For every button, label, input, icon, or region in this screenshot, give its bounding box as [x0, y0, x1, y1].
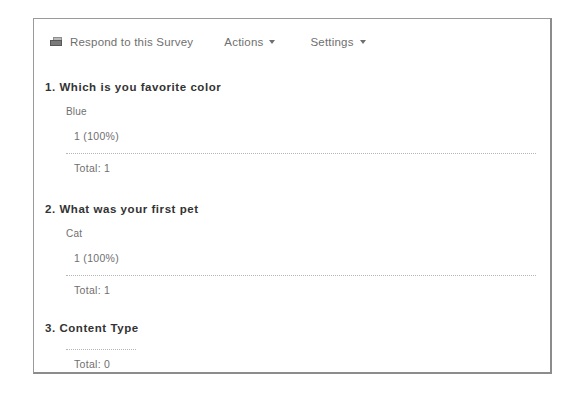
- question-title: 1. Which is you favorite color: [45, 81, 550, 93]
- question-block: 2. What was your first pet Cat 1 (100%) …: [34, 203, 550, 296]
- actions-menu-label: Actions: [224, 36, 263, 48]
- survey-icon: [50, 37, 64, 48]
- chevron-down-icon: [360, 40, 366, 44]
- question-separator: [66, 153, 536, 155]
- option-bar-track: [158, 123, 535, 148]
- question-title: 2. What was your first pet: [45, 203, 550, 215]
- question-separator: [66, 349, 136, 351]
- question-total: Total: 1: [74, 284, 550, 296]
- option-count-label: 1 (100%): [74, 252, 119, 264]
- survey-results-panel: Respond to this Survey Actions Settings …: [33, 18, 552, 374]
- option-bar-track: [158, 245, 535, 270]
- question-block: 3. Content Type Total: 0: [34, 322, 550, 370]
- respond-to-survey-button[interactable]: Respond to this Survey: [50, 36, 193, 48]
- option-label: Blue: [66, 106, 550, 117]
- actions-menu[interactable]: Actions: [224, 36, 275, 48]
- settings-menu[interactable]: Settings: [310, 36, 365, 48]
- question-total: Total: 1: [74, 162, 550, 174]
- question-title: 3. Content Type: [45, 322, 550, 334]
- settings-menu-label: Settings: [310, 36, 353, 48]
- respond-to-survey-label: Respond to this Survey: [70, 36, 193, 48]
- survey-toolbar: Respond to this Survey Actions Settings: [34, 31, 366, 53]
- option-label: Cat: [66, 228, 550, 239]
- option-count-label: 1 (100%): [74, 130, 119, 142]
- question-separator: [66, 275, 536, 277]
- chevron-down-icon: [269, 40, 275, 44]
- question-block: 1. Which is you favorite color Blue 1 (1…: [34, 81, 550, 174]
- option-result-row: 1 (100%): [34, 245, 550, 270]
- question-total: Total: 0: [74, 358, 550, 370]
- option-result-row: 1 (100%): [34, 123, 550, 148]
